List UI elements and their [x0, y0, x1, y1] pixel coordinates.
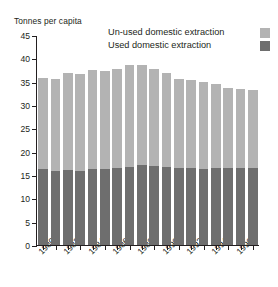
- bar-1989: [149, 69, 158, 245]
- bar-segment-unused: [236, 89, 245, 168]
- bar-segment-unused: [174, 79, 183, 168]
- chart-container: Tonnes per capita Un-used domestic extra…: [0, 0, 278, 287]
- bar-segment-unused: [100, 71, 109, 169]
- x-axis-tick: [56, 246, 57, 250]
- bar-1994: [211, 84, 220, 245]
- bar-segment-used: [100, 169, 109, 245]
- x-axis-tick: [179, 246, 180, 250]
- bar-1986: [112, 69, 121, 245]
- legend-swatch-used-icon: [260, 41, 270, 51]
- y-axis-tick: [32, 36, 36, 37]
- x-axis-tick: [154, 246, 155, 250]
- y-axis-tick: [32, 246, 36, 247]
- bar-segment-used: [211, 168, 220, 245]
- bar-segment-used: [186, 168, 195, 245]
- bar-1983: [75, 74, 84, 245]
- y-axis-tick-label: 40: [20, 55, 30, 64]
- bar-segment-unused: [112, 69, 121, 168]
- bar-1990: [162, 73, 171, 245]
- y-axis-tick: [32, 83, 36, 84]
- x-axis-tick: [228, 246, 229, 250]
- y-axis-tick: [32, 59, 36, 60]
- bar-1991: [174, 79, 183, 245]
- bar-1984: [88, 70, 97, 245]
- bar-segment-unused: [199, 82, 208, 169]
- bar-1996: [236, 89, 245, 245]
- bar-1988: [137, 65, 146, 245]
- bar-segment-unused: [149, 69, 158, 167]
- bar-segment-unused: [88, 70, 97, 169]
- y-axis-tick-label: 10: [20, 195, 30, 204]
- bar-segment-used: [199, 169, 208, 245]
- bar-segment-unused: [51, 79, 60, 170]
- bar-segment-unused: [38, 78, 47, 169]
- y-axis-tick-label: 45: [20, 32, 30, 41]
- y-axis-tick: [32, 153, 36, 154]
- x-axis-tick: [105, 246, 106, 250]
- bar-segment-used: [51, 171, 60, 245]
- y-axis-tick-label: 15: [20, 172, 30, 181]
- x-axis-tick: [80, 246, 81, 250]
- bar-segment-used: [125, 167, 134, 245]
- y-axis-tick-label: 20: [20, 148, 30, 157]
- bar-1995: [223, 88, 232, 245]
- y-axis-title: Tonnes per capita: [14, 16, 82, 26]
- bar-segment-unused: [125, 65, 134, 166]
- y-axis-tick: [32, 176, 36, 177]
- x-axis-tick: [130, 246, 131, 250]
- bar-segment-used: [174, 168, 183, 245]
- x-axis-tick: [204, 246, 205, 250]
- bar-segment-used: [236, 168, 245, 245]
- bar-segment-unused: [137, 65, 146, 165]
- bar-segment-used: [162, 167, 171, 245]
- plot-area: 051015202530354045 198019821984198619881…: [36, 36, 258, 246]
- y-axis-tick-label: 0: [25, 242, 30, 251]
- bar-1981: [51, 79, 60, 245]
- y-axis-tick: [32, 223, 36, 224]
- bar-segment-used: [223, 168, 232, 245]
- bar-segment-unused: [63, 73, 72, 170]
- bar-1982: [63, 73, 72, 245]
- bar-1997: [248, 90, 257, 245]
- y-axis-tick-label: 30: [20, 102, 30, 111]
- bar-segment-unused: [248, 90, 257, 168]
- bar-segment-used: [75, 171, 84, 245]
- bar-segment-unused: [186, 80, 195, 168]
- bar-segment-used: [38, 169, 47, 245]
- bar-segment-unused: [211, 84, 220, 168]
- bar-segment-unused: [162, 73, 171, 166]
- legend-swatch-unused-icon: [260, 28, 270, 38]
- y-axis-tick-label: 5: [25, 218, 30, 227]
- bar-1993: [199, 82, 208, 245]
- bar-1980: [38, 78, 47, 245]
- bar-segment-unused: [75, 74, 84, 172]
- bar-1987: [125, 65, 134, 245]
- bar-segment-used: [88, 169, 97, 245]
- x-axis-tick: [253, 246, 254, 250]
- y-axis-tick: [32, 199, 36, 200]
- bar-segment-used: [112, 168, 121, 245]
- y-axis-line: [36, 36, 37, 247]
- y-axis-tick: [32, 106, 36, 107]
- bar-segment-used: [63, 170, 72, 245]
- y-axis-tick-label: 25: [20, 125, 30, 134]
- bar-1992: [186, 80, 195, 245]
- bar-segment-used: [248, 168, 257, 245]
- bar-segment-used: [149, 166, 158, 245]
- y-axis-tick: [32, 129, 36, 130]
- y-axis-tick-label: 35: [20, 78, 30, 87]
- bar-1985: [100, 71, 109, 245]
- bar-segment-used: [137, 165, 146, 245]
- bar-segment-unused: [223, 88, 232, 168]
